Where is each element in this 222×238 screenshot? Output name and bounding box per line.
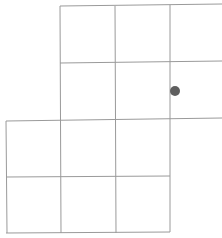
grid-diagram	[0, 0, 222, 238]
grid-line	[60, 4, 222, 6]
grid-line	[115, 6, 116, 233]
grid-line	[6, 176, 170, 177]
grid-line	[6, 232, 170, 233]
marker-dot	[170, 86, 180, 96]
grid-line	[6, 118, 222, 121]
grid-line	[60, 61, 222, 63]
grid-line	[60, 6, 61, 233]
grid-line	[6, 121, 7, 233]
